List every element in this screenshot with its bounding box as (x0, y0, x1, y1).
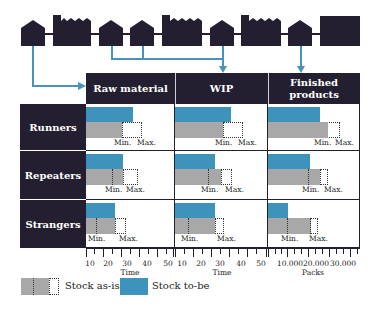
tick (86, 249, 87, 257)
bar-stock-range (310, 218, 318, 234)
axis-title: Packs (302, 268, 324, 277)
bar-stock-range (96, 218, 116, 234)
tick (256, 249, 257, 254)
bar-stock-range (320, 169, 328, 185)
cell-runners-finished: Min. Max. (268, 104, 360, 151)
max-label: Max. (217, 234, 236, 243)
min-label: Min. (201, 185, 218, 194)
header-label: WIP (210, 83, 233, 95)
warehouse-icon (21, 20, 45, 46)
tick (350, 249, 351, 257)
axis-wip (175, 248, 268, 259)
header-label: Finished products (284, 77, 344, 101)
tick-label: 20 (196, 259, 206, 268)
axis-raw-material (86, 248, 175, 259)
cell-repeaters-finished: Min. Max. (268, 151, 360, 200)
min-label: Min. (105, 185, 122, 194)
bar-stock-range (123, 169, 138, 185)
cell-repeaters-raw: Min. Max. (86, 151, 175, 200)
bar-stock-range (208, 169, 222, 185)
tick (130, 249, 131, 254)
tick (301, 249, 302, 254)
factory-icon (162, 15, 202, 46)
header-label: Raw material (93, 83, 168, 95)
as-is-fill-extension (320, 122, 328, 138)
tick-label: 10.000 (277, 259, 303, 268)
tick (247, 249, 248, 257)
arrow-right-icon (78, 82, 86, 90)
max-label: Max. (238, 138, 257, 147)
connector-raw-horizontal (32, 85, 80, 87)
warehouse-icon (288, 20, 312, 46)
max-label: Max. (225, 185, 244, 194)
row-label-strangers: Strangers (20, 200, 86, 248)
cell-repeaters-wip: Min. Max. (175, 151, 268, 200)
header-finished-products: Finished products (268, 73, 360, 104)
legend-swatch-as-is (21, 278, 59, 295)
max-label: Max. (309, 234, 328, 243)
warehouse-icon (210, 20, 234, 46)
min-label: Min. (181, 234, 198, 243)
tick-label: 30.000 (330, 259, 356, 268)
bar-stock-to-be (86, 107, 133, 122)
tick (173, 249, 174, 257)
min-label: Min. (314, 138, 331, 147)
tick (357, 249, 358, 254)
tick (220, 249, 221, 254)
tick (238, 249, 239, 254)
tick (294, 249, 295, 254)
warehouse-icon (130, 20, 154, 46)
bar-stock-to-be (86, 154, 123, 169)
bar-stock-range (223, 122, 243, 138)
tick (103, 249, 104, 257)
tick (193, 249, 194, 257)
tick (94, 249, 95, 254)
tick (184, 249, 185, 254)
min-label: Min. (88, 234, 105, 243)
row-label-repeaters: Repeaters (20, 151, 86, 199)
tick-label: 20 (103, 259, 113, 268)
cell-runners-wip: Min. Max. (175, 104, 268, 151)
tick-label: 10 (85, 259, 95, 268)
bar-stock-range (215, 218, 224, 234)
bar-stock-to-be (86, 203, 115, 218)
tick-label: 30 (215, 259, 225, 268)
tick (175, 249, 176, 257)
max-label: Max. (335, 138, 354, 147)
bar-stock-range (122, 122, 142, 138)
tick (329, 249, 330, 257)
tick (121, 249, 122, 257)
bar-stock-as-is (268, 122, 320, 138)
tick-label: 40 (236, 259, 246, 268)
tick (266, 249, 267, 257)
bar-stock-range (221, 169, 232, 185)
min-label: Min. (215, 138, 232, 147)
bar-stock-as-is (175, 122, 223, 138)
tick (202, 249, 203, 254)
tick-label: 10 (177, 259, 187, 268)
tick-label: 40 (142, 259, 152, 268)
max-label: Max. (324, 185, 343, 194)
header-divider (268, 73, 269, 104)
legend-swatch-to-be (120, 278, 148, 295)
customer-icon (320, 16, 360, 46)
connector-raw-vertical (32, 46, 34, 86)
min-label: Min. (281, 234, 298, 243)
tick (148, 249, 149, 254)
legend-as-is-fill (21, 278, 49, 295)
tick-label: 50 (163, 259, 173, 268)
row-label-runners: Runners (20, 104, 86, 150)
tick-label: 20.000 (303, 259, 329, 268)
cell-strangers-wip: Min. Max. (175, 200, 268, 248)
tick (166, 249, 167, 254)
cell-strangers-finished: Min. Max. (268, 200, 360, 248)
bar-stock-as-is (86, 122, 122, 138)
cell-strangers-raw: Min. Max. (86, 200, 175, 248)
header-raw-material: Raw material (86, 73, 175, 104)
arrow-down-icon (219, 66, 227, 73)
bar-stock-range (115, 218, 126, 234)
warehouse-icon (99, 20, 123, 46)
legend-range-box (49, 278, 59, 295)
header-wip: WIP (175, 73, 268, 104)
tick (268, 249, 269, 257)
